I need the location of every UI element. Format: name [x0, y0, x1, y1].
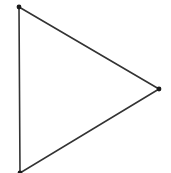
- vertex-dot-bottom-left: [18, 171, 23, 173]
- vertex-dot-right: [157, 87, 162, 92]
- vertex-dot-top-left: [17, 5, 22, 10]
- triangle-diagram: [0, 0, 171, 173]
- triangle-shape: [19, 7, 159, 173]
